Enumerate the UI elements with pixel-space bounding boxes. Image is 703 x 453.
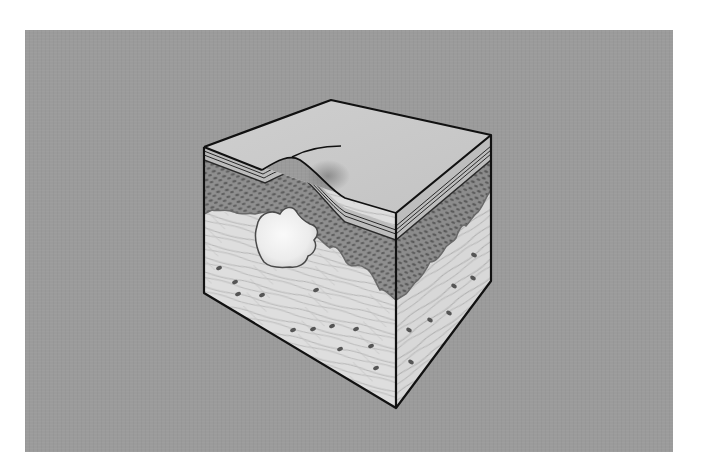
fold-shadow — [306, 160, 350, 192]
skin-block-illustration — [0, 0, 703, 453]
